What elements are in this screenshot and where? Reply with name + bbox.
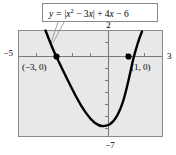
x-max-label: 3 [167,51,172,61]
x-min-label: −5 [3,48,13,58]
intercept-marker-right [125,53,131,59]
equation-tail-end: − 6 [114,9,129,19]
equation-label-text: y = |x2 − 3x| + 4x − 6 [48,7,129,19]
equation-term-mid: − 3 [74,9,89,19]
graph-figure: −5 3 2 −7 (−3, 0) (1, 0) y = |x2 − 3x| +… [0,0,176,155]
figure-container: −5 3 2 −7 (−3, 0) (1, 0) y = |x2 − 3x| +… [0,0,176,155]
plot-area [19,31,163,137]
point-label-left: (−3, 0) [22,62,47,72]
intercept-marker-left [53,53,59,59]
point-label-right: (1, 0) [131,62,151,72]
equation-prefix: y = [48,9,64,19]
y-min-label: −7 [105,140,115,150]
equation-tail: + 4 [95,9,110,19]
